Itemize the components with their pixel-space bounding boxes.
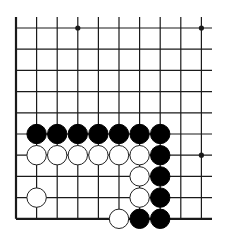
black-stone[interactable] [151,146,170,165]
white-stone[interactable] [89,146,108,165]
black-stone[interactable] [27,124,46,143]
black-stone[interactable] [48,124,67,143]
star-point [199,153,204,158]
white-stone[interactable] [48,146,67,165]
black-stone[interactable] [109,124,128,143]
black-stone[interactable] [151,124,170,143]
black-stone[interactable] [130,209,149,228]
black-stone[interactable] [151,209,170,228]
black-stone[interactable] [89,124,108,143]
go-board[interactable] [0,0,226,246]
white-stone[interactable] [68,146,87,165]
white-stone[interactable] [27,188,46,207]
white-stone[interactable] [109,209,128,228]
black-stone[interactable] [68,124,87,143]
white-stone[interactable] [109,146,128,165]
black-stone[interactable] [130,124,149,143]
black-stone[interactable] [151,167,170,186]
white-stone[interactable] [130,188,149,207]
star-point [199,25,204,30]
white-stone[interactable] [130,167,149,186]
board-grid [16,17,212,219]
white-stone[interactable] [27,146,46,165]
star-point [75,25,80,30]
black-stone[interactable] [151,188,170,207]
white-stone[interactable] [130,146,149,165]
